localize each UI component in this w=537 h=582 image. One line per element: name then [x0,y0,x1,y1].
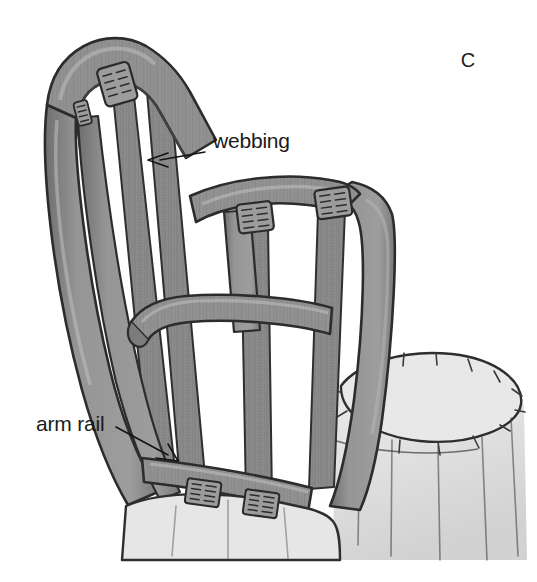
panel-letter: C [461,49,475,71]
webbing-clip [236,201,274,234]
webbing-clip [243,489,280,518]
label-webbing: webbing [212,129,290,152]
webbing-clip [185,478,222,507]
chair-illustration: webbing arm rail C [0,0,537,582]
figure-container: webbing arm rail C [0,0,537,582]
label-arm-rail: arm rail [36,412,104,435]
webbing-clip [314,186,353,220]
